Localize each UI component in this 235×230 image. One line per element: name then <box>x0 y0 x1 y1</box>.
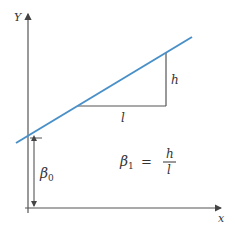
run-label: l <box>121 111 125 125</box>
rise-label: h <box>171 73 179 87</box>
slope-formula-numerator: h <box>166 147 174 161</box>
slope-formula-lhs: β1 <box>119 153 134 171</box>
intercept-label: β0 <box>39 165 54 183</box>
y-axis-label: Y <box>14 11 23 24</box>
slope-formula-denominator: l <box>167 163 171 177</box>
x-axis-label: x <box>218 212 225 225</box>
regression-diagram: Y x h l β0 β1 = h l <box>0 0 235 230</box>
slope-formula-equals: = <box>141 154 152 169</box>
